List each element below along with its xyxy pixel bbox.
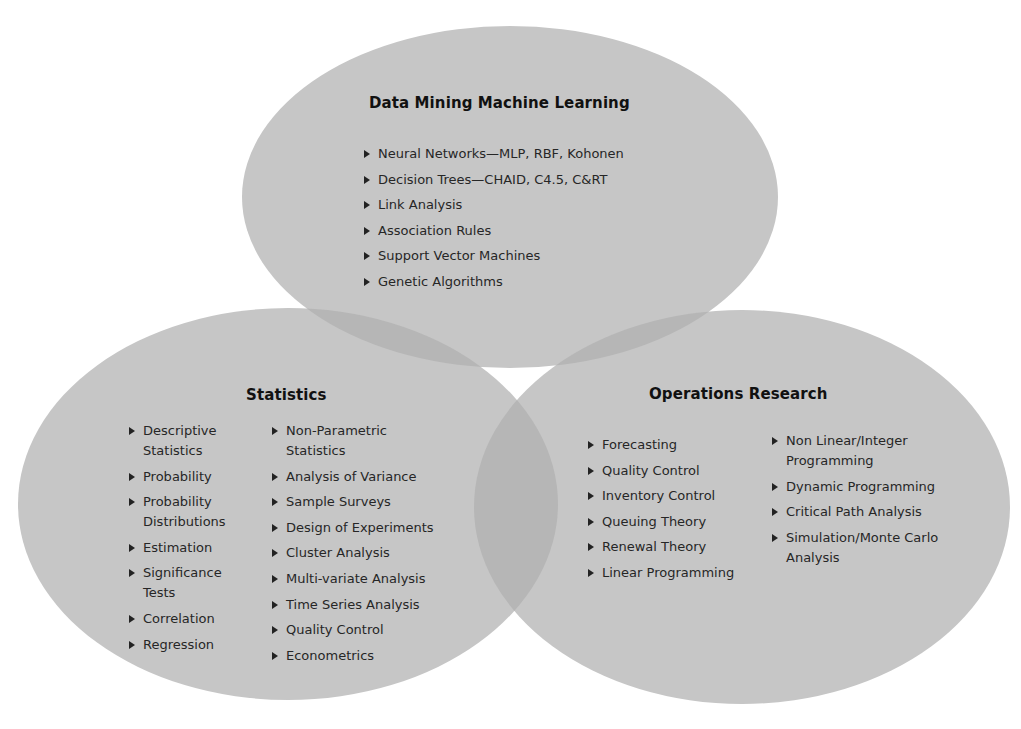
list-item: Renewal Theory: [588, 537, 734, 557]
list-item: Decision Trees—CHAID, C4.5, C&RT: [364, 170, 624, 190]
set-title-data-mining: Data Mining Machine Learning: [369, 94, 630, 112]
triangle-bullet-icon: [129, 427, 135, 435]
triangle-bullet-icon: [364, 278, 370, 286]
list-item: Non-Parametric Statistics: [272, 421, 462, 461]
triangle-bullet-icon: [588, 569, 594, 577]
list-item: Linear Programming: [588, 563, 734, 583]
list-item: Support Vector Machines: [364, 246, 624, 266]
list-item: Forecasting: [588, 435, 734, 455]
triangle-bullet-icon: [272, 626, 278, 634]
statistics-list-col2: Non-Parametric Statistics Analysis of Va…: [272, 421, 462, 671]
triangle-bullet-icon: [272, 652, 278, 660]
triangle-bullet-icon: [129, 473, 135, 481]
list-item: Quality Control: [588, 461, 734, 481]
set-title-statistics: Statistics: [246, 386, 326, 404]
triangle-bullet-icon: [129, 615, 135, 623]
list-item: Regression: [129, 635, 234, 655]
triangle-bullet-icon: [588, 467, 594, 475]
triangle-bullet-icon: [272, 575, 278, 583]
triangle-bullet-icon: [364, 201, 370, 209]
list-item: Analysis of Variance: [272, 467, 462, 487]
triangle-bullet-icon: [129, 498, 135, 506]
triangle-bullet-icon: [129, 569, 135, 577]
triangle-bullet-icon: [588, 441, 594, 449]
triangle-bullet-icon: [272, 524, 278, 532]
list-item: Neural Networks—MLP, RBF, Kohonen: [364, 144, 624, 164]
list-item: Critical Path Analysis: [772, 502, 957, 522]
list-item: Genetic Algorithms: [364, 272, 624, 292]
triangle-bullet-icon: [772, 483, 778, 491]
list-item: Significance Tests: [129, 563, 234, 603]
statistics-list-col1: Descriptive Statistics Probability Proba…: [129, 421, 234, 660]
triangle-bullet-icon: [272, 498, 278, 506]
list-item: Econometrics: [272, 646, 462, 666]
list-item: Design of Experiments: [272, 518, 462, 538]
triangle-bullet-icon: [588, 543, 594, 551]
list-item: Cluster Analysis: [272, 543, 462, 563]
list-item: Correlation: [129, 609, 234, 629]
triangle-bullet-icon: [588, 518, 594, 526]
list-item: Multi-variate Analysis: [272, 569, 462, 589]
operations-research-list-col2: Non Linear/Integer Programming Dynamic P…: [772, 431, 957, 573]
triangle-bullet-icon: [129, 641, 135, 649]
list-item: Non Linear/Integer Programming: [772, 431, 957, 471]
list-item: Queuing Theory: [588, 512, 734, 532]
list-item: Link Analysis: [364, 195, 624, 215]
list-item: Simulation/Monte Carlo Analysis: [772, 528, 957, 568]
list-item: Probability: [129, 467, 234, 487]
triangle-bullet-icon: [364, 252, 370, 260]
triangle-bullet-icon: [129, 544, 135, 552]
triangle-bullet-icon: [772, 534, 778, 542]
triangle-bullet-icon: [272, 601, 278, 609]
list-item: Quality Control: [272, 620, 462, 640]
list-item: Association Rules: [364, 221, 624, 241]
triangle-bullet-icon: [364, 150, 370, 158]
data-mining-list: Neural Networks—MLP, RBF, Kohonen Decisi…: [364, 144, 624, 298]
triangle-bullet-icon: [588, 492, 594, 500]
list-item: Time Series Analysis: [272, 595, 462, 615]
set-title-operations-research: Operations Research: [649, 385, 827, 403]
list-item: Sample Surveys: [272, 492, 462, 512]
triangle-bullet-icon: [364, 227, 370, 235]
list-item: Probability Distributions: [129, 492, 234, 532]
triangle-bullet-icon: [272, 427, 278, 435]
list-item: Inventory Control: [588, 486, 734, 506]
triangle-bullet-icon: [772, 437, 778, 445]
list-item: Dynamic Programming: [772, 477, 957, 497]
list-item: Descriptive Statistics: [129, 421, 234, 461]
list-item: Estimation: [129, 538, 234, 558]
triangle-bullet-icon: [364, 176, 370, 184]
triangle-bullet-icon: [272, 473, 278, 481]
triangle-bullet-icon: [772, 508, 778, 516]
operations-research-list-col1: Forecasting Quality Control Inventory Co…: [588, 435, 734, 589]
triangle-bullet-icon: [272, 549, 278, 557]
